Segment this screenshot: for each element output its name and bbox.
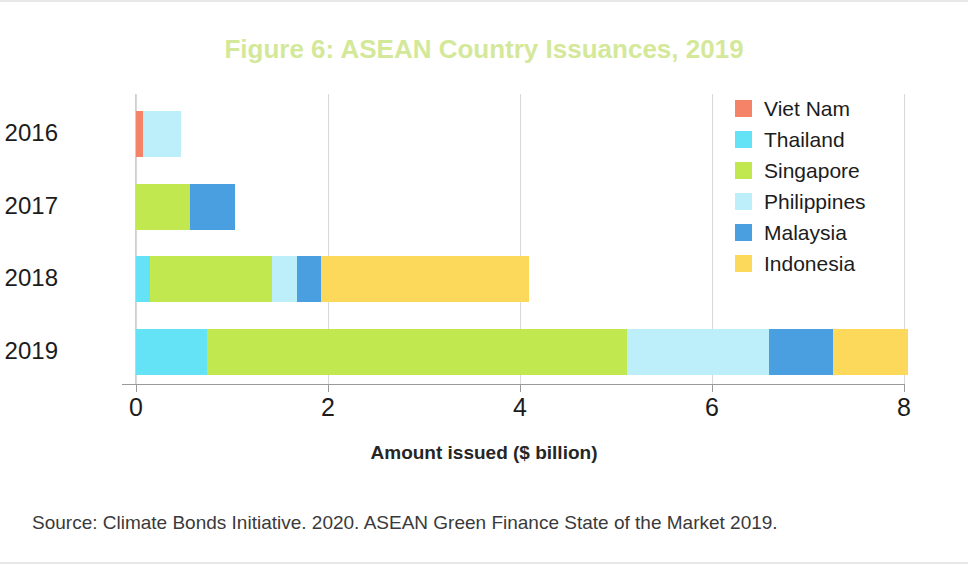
legend-label: Singapore: [764, 159, 860, 183]
bar-segment-2018-malaysia: [297, 256, 321, 302]
legend-item-malaysia[interactable]: Malaysia: [735, 217, 866, 248]
legend-label: Malaysia: [764, 221, 847, 245]
legend-label: Thailand: [764, 128, 845, 152]
x-tick-0: [136, 384, 137, 392]
x-tick-label-4: 4: [490, 393, 550, 422]
legend-swatch-icon: [735, 224, 752, 241]
chart-legend: Viet NamThailandSingaporePhilippinesMala…: [735, 93, 866, 279]
legend-label: Viet Nam: [764, 97, 850, 121]
legend-item-singapore[interactable]: Singapore: [735, 155, 866, 186]
legend-swatch-icon: [735, 255, 752, 272]
bar-2019: [136, 329, 904, 375]
bar-segment-2017-malaysia: [190, 184, 235, 230]
y-axis-label-2017: 2017: [0, 192, 58, 220]
x-tick-label-0: 0: [106, 393, 166, 422]
x-tick-label-6: 6: [682, 393, 742, 422]
bar-segment-2018-thailand: [136, 256, 150, 302]
x-tick-4: [520, 384, 521, 392]
legend-swatch-icon: [735, 162, 752, 179]
bar-segment-2019-thailand: [136, 329, 207, 375]
figure-container: Figure 6: ASEAN Country Issuances, 2019 …: [0, 0, 968, 564]
bar-segment-2018-indonesia: [321, 256, 528, 302]
bar-segment-2018-philippines: [272, 256, 297, 302]
bar-segment-2018-singapore: [150, 256, 272, 302]
legend-label: Indonesia: [764, 252, 855, 276]
x-tick-6: [712, 384, 713, 392]
y-axis-label-2018: 2018: [0, 264, 58, 292]
chart-title: Figure 6: ASEAN Country Issuances, 2019: [0, 34, 968, 65]
x-tick-label-8: 8: [874, 393, 934, 422]
bar-segment-2019-philippines: [627, 329, 769, 375]
x-axis-line: [122, 384, 904, 385]
legend-item-indonesia[interactable]: Indonesia: [735, 248, 866, 279]
bar-segment-2016-philippines: [143, 111, 181, 157]
x-axis-title: Amount issued ($ billion): [0, 442, 968, 464]
top-divider: [0, 0, 968, 2]
y-axis-label-2016: 2016: [0, 119, 58, 147]
legend-item-philippines[interactable]: Philippines: [735, 186, 866, 217]
y-axis-label-2019: 2019: [0, 337, 58, 365]
bar-segment-2019-malaysia: [769, 329, 833, 375]
bar-segment-2017-singapore: [136, 184, 190, 230]
legend-swatch-icon: [735, 193, 752, 210]
bar-segment-2019-indonesia: [833, 329, 908, 375]
x-tick-8: [904, 384, 905, 392]
x-tick-label-2: 2: [298, 393, 358, 422]
x-tick-2: [328, 384, 329, 392]
legend-swatch-icon: [735, 131, 752, 148]
legend-item-viet-nam[interactable]: Viet Nam: [735, 93, 866, 124]
legend-swatch-icon: [735, 100, 752, 117]
legend-item-thailand[interactable]: Thailand: [735, 124, 866, 155]
bar-segment-2019-singapore: [207, 329, 627, 375]
bar-segment-2016-viet-nam: [136, 111, 143, 157]
legend-label: Philippines: [764, 190, 866, 214]
source-note: Source: Climate Bonds Initiative. 2020. …: [32, 512, 778, 534]
